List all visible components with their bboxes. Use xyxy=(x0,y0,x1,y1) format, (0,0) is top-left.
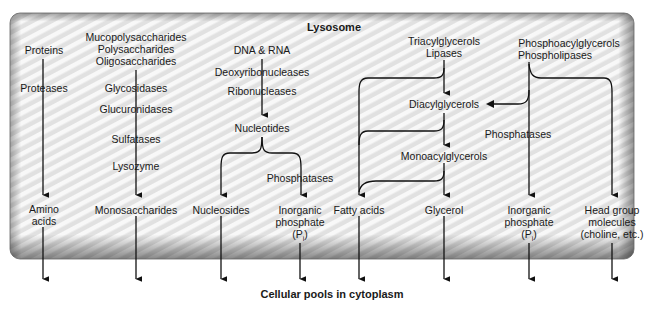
proteins-label: Proteins xyxy=(25,44,64,56)
inorganic-phosphate-label-1: Inorganic phosphate (Pi) xyxy=(275,204,324,245)
phosphate2-line-1: Inorganic xyxy=(507,204,550,216)
nucleotides-label: Nucleotides xyxy=(235,122,290,134)
phosphate-line-2: phosphate xyxy=(275,216,324,228)
phospholipases-label: Phospholipases xyxy=(518,49,592,61)
amino-acids-label: Amino acids xyxy=(29,203,59,227)
phosphatases-label-1: Phosphatases xyxy=(267,172,334,184)
head-group-line-1: Head group xyxy=(585,204,640,216)
oligosaccharides-label: Oligosaccharides xyxy=(96,55,177,67)
lysosome-title: Lysosome xyxy=(307,21,361,33)
ribonucleases-label: Ribonucleases xyxy=(228,85,297,97)
phosphate-line-1: Inorganic xyxy=(278,204,321,216)
cytoplasm-pools-label: Cellular pools in cytoplasm xyxy=(0,288,664,300)
glycerol-label: Glycerol xyxy=(425,204,464,216)
phosphoacylglycerols-label: Phosphoacylglycerols xyxy=(518,37,620,49)
phosphate2-line-2: phosphate xyxy=(504,216,553,228)
glycosidases-label: Glycosidases xyxy=(105,82,167,94)
diacylglycerols-label: Diacylglycerols xyxy=(409,98,479,110)
sulfatases-label: Sulfatases xyxy=(111,133,160,145)
monoacylglycerols-label: Monoacylglycerols xyxy=(401,150,487,162)
proteases-label: Proteases xyxy=(20,82,67,94)
phosphate-symbol: (P xyxy=(292,228,303,240)
amino-acids-line-2: acids xyxy=(32,215,57,227)
amino-acids-line-1: Amino xyxy=(29,203,59,215)
lysozyme-label: Lysozyme xyxy=(113,160,160,172)
fatty-acids-label: Fatty acids xyxy=(334,204,385,216)
head-group-label: Head group molecules (choline, etc.) xyxy=(580,204,643,240)
deoxyribonucleases-label: Deoxyribonucleases xyxy=(215,66,310,78)
head-group-line-2: molecules xyxy=(588,216,635,228)
phosphate-close: ) xyxy=(304,228,308,240)
mucopolysaccharides-label: Mucopolysaccharides xyxy=(86,31,187,43)
monosaccharides-label: Monosaccharides xyxy=(95,204,177,216)
inorganic-phosphate-label-2: Inorganic phosphate (Pi) xyxy=(504,204,553,245)
head-group-line-3: (choline, etc.) xyxy=(580,228,643,240)
lipases-label: Lipases xyxy=(426,47,462,59)
nucleosides-label: Nucleosides xyxy=(192,204,249,216)
dna-rna-label: DNA & RNA xyxy=(234,44,291,56)
glucuronidases-label: Glucuronidases xyxy=(100,103,173,115)
triacylglycerols-label: Triacylglycerols xyxy=(408,35,480,47)
phosphate2-symbol: (P xyxy=(521,228,532,240)
phosphate2-close: ) xyxy=(533,228,537,240)
polysaccharides-label: Polysaccharides xyxy=(98,43,174,55)
phosphatases-label-2: Phosphatases xyxy=(485,128,552,140)
